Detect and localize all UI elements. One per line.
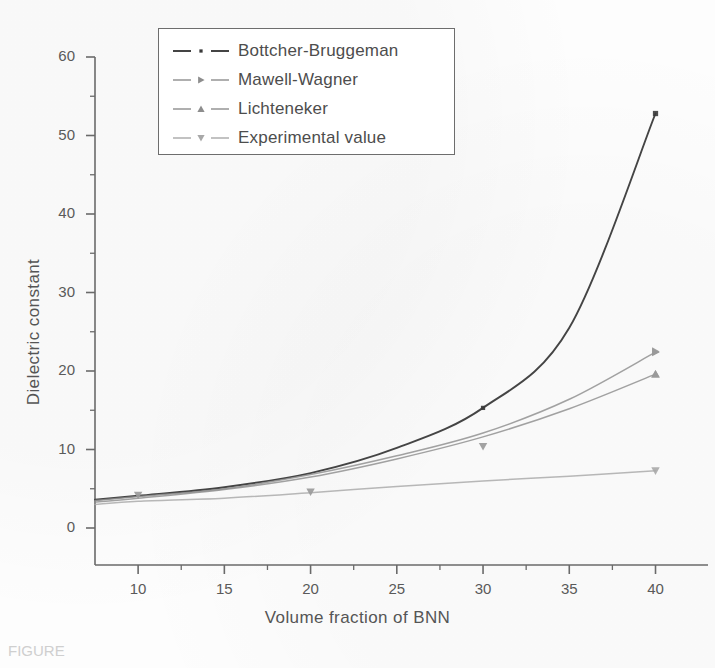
series-experimental-value <box>95 471 656 505</box>
legend-marker-triangle-down <box>197 135 204 141</box>
y-tick-label: 50 <box>41 126 75 143</box>
legend-item-3[interactable]: Experimental value <box>171 123 454 152</box>
caption-text: FIGURE <box>8 646 65 659</box>
legend-marker-triangle-right <box>198 76 204 83</box>
caption-strip: FIGURE <box>0 646 715 668</box>
data-point-square <box>481 406 485 410</box>
data-point-triangle-right <box>652 347 660 355</box>
y-tick-label: 10 <box>41 440 75 457</box>
series-lichteneker <box>95 374 656 502</box>
series-line <box>95 352 656 500</box>
legend-marker-square <box>199 49 202 52</box>
data-point-triangle-down <box>479 443 487 451</box>
x-tick-label: 25 <box>377 580 417 597</box>
x-tick-label: 40 <box>636 580 676 597</box>
legend-key-triangle-up-icon <box>171 101 231 117</box>
legend-item-2[interactable]: Lichteneker <box>171 94 454 123</box>
x-tick-label: 15 <box>204 580 244 597</box>
y-tick-label: 60 <box>41 47 75 64</box>
legend-item-1[interactable]: Mawell-Wagner <box>171 65 454 94</box>
legend-key-square-icon <box>171 43 231 59</box>
legend-key-triangle-right-icon <box>171 72 231 88</box>
y-tick-label: 0 <box>41 518 75 535</box>
y-tick-label: 30 <box>41 283 75 300</box>
legend-marker-triangle-up <box>197 105 204 111</box>
series-line <box>95 471 656 505</box>
data-point-triangle-up <box>651 370 659 378</box>
y-tick-label: 20 <box>41 361 75 378</box>
x-tick-label: 10 <box>118 580 158 597</box>
figure-canvas: 010203040506010152025303540 Dielectric c… <box>0 0 715 668</box>
series-line <box>95 114 656 500</box>
x-axis-title: Volume fraction of BNN <box>0 608 715 628</box>
series-mawell-wagner <box>95 352 656 500</box>
legend-label: Mawell-Wagner <box>238 70 358 90</box>
legend-label: Experimental value <box>238 128 386 148</box>
x-tick-label: 20 <box>291 580 331 597</box>
series-line <box>95 374 656 502</box>
marker-square <box>653 111 658 116</box>
legend-key-triangle-down-icon <box>171 130 231 146</box>
legend-label: Lichteneker <box>238 99 328 119</box>
y-axis-title: Dielectric constant <box>24 202 44 462</box>
series-bottcher-bruggeman <box>95 114 656 500</box>
legend-item-0[interactable]: Bottcher-Bruggeman <box>171 36 454 65</box>
x-tick-label: 30 <box>463 580 503 597</box>
y-tick-label: 40 <box>41 204 75 221</box>
legend-label: Bottcher-Bruggeman <box>238 41 398 61</box>
series-layer <box>95 114 656 505</box>
chart-legend[interactable]: Bottcher-BruggemanMawell-WagnerLichtenek… <box>158 28 455 155</box>
x-tick-label: 35 <box>549 580 589 597</box>
